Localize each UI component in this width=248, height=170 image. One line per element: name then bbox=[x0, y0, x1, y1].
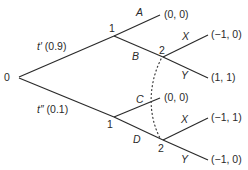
root-label: 0 bbox=[4, 71, 10, 83]
game-tree-diagram: 0 t′ (0.9) t″ (0.1) 1 1 2 2 A B X Y C D … bbox=[0, 0, 248, 170]
action-label-Y-bottom: Y bbox=[181, 153, 189, 165]
payoff-Y-top: (1, 1) bbox=[211, 71, 236, 83]
action-label-D: D bbox=[133, 133, 141, 145]
payoff-X-bottom: (−1, 1) bbox=[211, 111, 242, 123]
payoff-A: (0, 0) bbox=[164, 8, 189, 20]
action-label-C: C bbox=[136, 93, 144, 105]
t-double-prime-prob: (0.1) bbox=[44, 103, 69, 115]
payoff-Y-bottom: (−1, 0) bbox=[211, 153, 242, 165]
action-label-X-bottom: X bbox=[180, 113, 189, 125]
action-label-A: A bbox=[135, 6, 143, 18]
label-t-double-prime: t″ (0.1) bbox=[37, 103, 68, 115]
action-label-Y-top: Y bbox=[181, 69, 189, 81]
action-label-B: B bbox=[132, 50, 139, 62]
player-label-2-bottom: 2 bbox=[158, 142, 164, 154]
edge-A bbox=[114, 15, 160, 36]
action-label-X-top: X bbox=[181, 30, 190, 42]
payoff-X-top: (−1, 0) bbox=[211, 28, 242, 40]
label-t-prime: t′ (0.9) bbox=[37, 40, 66, 52]
player-label-1-bottom: 1 bbox=[107, 118, 113, 130]
game-tree-svg: 0 t′ (0.9) t″ (0.1) 1 1 2 2 A B X Y C D … bbox=[0, 0, 248, 170]
t-prime-prob: (0.9) bbox=[42, 40, 67, 52]
edge-t-prime bbox=[19, 36, 114, 77]
player-label-1-top: 1 bbox=[109, 22, 115, 34]
player-label-2-top: 2 bbox=[159, 44, 165, 56]
payoff-C: (0, 0) bbox=[164, 91, 189, 103]
